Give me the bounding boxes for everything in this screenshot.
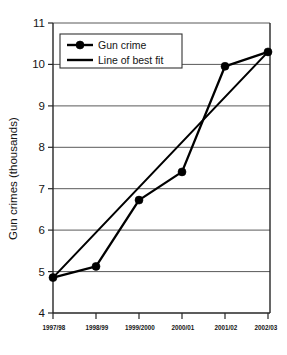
y-tick-label-5: 5 — [39, 266, 45, 278]
y-tick-label-8: 8 — [39, 141, 45, 153]
y-axis-title: Gun crimes (thousands) — [7, 117, 19, 240]
y-tick-label-10: 10 — [32, 58, 45, 70]
chart-canvas: Gun crimes (thousands) 11 — [0, 0, 287, 355]
data-point-1997-98 — [49, 274, 57, 282]
gun-crime-line-chart: Gun crimes (thousands) 11 — [0, 0, 287, 355]
x-tick-label-1998-99: 1998/99 — [86, 324, 109, 331]
chart-legend: Gun crime Line of best fit — [60, 34, 182, 68]
x-tick-label-1999-2000: 1999/2000 — [125, 324, 155, 331]
data-point-1998-99 — [92, 262, 100, 270]
legend-label-gun-crime: Gun crime — [98, 39, 147, 51]
y-tick-label-4: 4 — [39, 307, 46, 319]
x-tick-label-2000-01: 2000/01 — [172, 324, 195, 331]
y-tick-label-6: 6 — [39, 224, 45, 236]
data-point-1999-2000 — [135, 196, 143, 204]
data-point-2001-02 — [221, 62, 229, 70]
x-tick-label-2001-02: 2001/02 — [215, 324, 238, 331]
y-tick-label-9: 9 — [39, 100, 45, 112]
x-tick-label-1997-98: 1997/98 — [43, 324, 66, 331]
x-tick-label-2002-03: 2002/03 — [255, 324, 278, 331]
legend-label-line-of-best-fit: Line of best fit — [98, 54, 163, 66]
y-tick-label-7: 7 — [39, 183, 45, 195]
data-point-2002-03 — [264, 48, 272, 56]
y-tick-label-11: 11 — [33, 17, 45, 29]
legend-marker-gun-crime-dot — [76, 41, 84, 49]
data-point-2000-01 — [178, 168, 186, 176]
